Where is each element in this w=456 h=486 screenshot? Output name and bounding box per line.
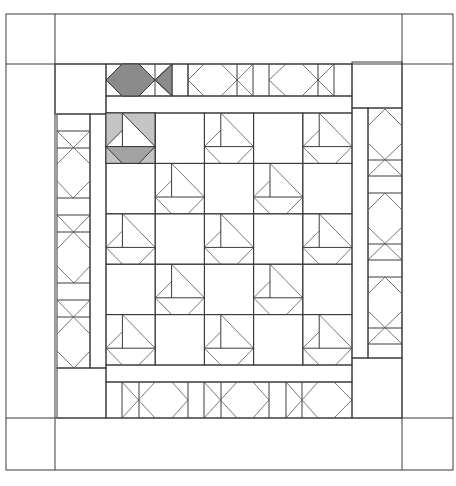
outer-border: [6, 14, 453, 470]
quilt-diagram: [0, 0, 456, 486]
plain-block: [155, 214, 204, 264]
sailboat-block: [303, 214, 352, 264]
sailboat-block: [204, 214, 253, 264]
sailboat-block: [106, 214, 155, 264]
plain-block: [155, 315, 204, 365]
sailboat-block: [303, 113, 352, 163]
sailboat-block: [254, 163, 303, 213]
plain-block: [204, 264, 253, 314]
plain-block: [303, 264, 352, 314]
sailboat-block: [155, 264, 204, 314]
plain-block: [106, 264, 155, 314]
sailboat-block: [254, 264, 303, 314]
sailboat-block: [303, 315, 352, 365]
plain-block: [155, 113, 204, 163]
sailboat-block: [155, 163, 204, 213]
right-strip: [352, 108, 402, 358]
diamond-x-unit-1: [188, 64, 269, 96]
sailboat-block: [106, 113, 155, 163]
plain-block: [254, 214, 303, 264]
left-strip: [57, 114, 106, 368]
plain-block: [204, 163, 253, 213]
sailboat-block: [204, 315, 253, 365]
diamond-x-unit-2: [269, 64, 334, 96]
plain-block: [303, 163, 352, 213]
plain-block: [254, 113, 303, 163]
bottom-strip: [106, 365, 352, 418]
center-grid: [106, 113, 352, 365]
plain-block: [254, 315, 303, 365]
sailboat-block: [106, 315, 155, 365]
top-strip: [106, 64, 352, 113]
plain-block: [106, 163, 155, 213]
fish-unit-shaded: [106, 64, 172, 96]
sailboat-block: [204, 113, 253, 163]
